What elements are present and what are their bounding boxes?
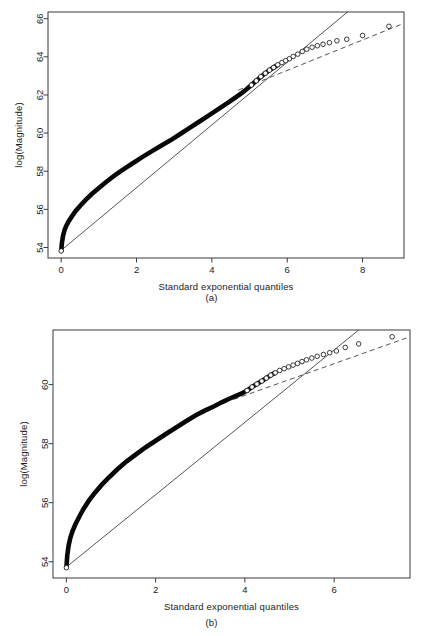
data-point — [267, 68, 272, 73]
data-point — [268, 373, 273, 378]
y-tick-label: 54 — [40, 556, 51, 567]
x-tick-label: 4 — [242, 584, 247, 595]
data-point — [321, 42, 326, 47]
data-point — [291, 363, 296, 368]
data-point — [387, 24, 392, 29]
data-point — [291, 54, 296, 59]
data-point — [295, 361, 300, 366]
data-point — [255, 382, 260, 387]
qq-plot-b: 024654565860Standard exponential quantil… — [0, 310, 423, 636]
y-tick-label: 56 — [40, 497, 51, 508]
y-tick-label: 54 — [35, 242, 46, 253]
data-point — [315, 43, 320, 48]
data-point — [264, 376, 269, 381]
data-point — [59, 249, 64, 254]
data-point — [360, 33, 365, 38]
data-point — [315, 354, 320, 359]
data-point — [271, 65, 276, 70]
data-point — [273, 371, 278, 376]
y-tick-label: 64 — [35, 52, 46, 63]
data-point — [343, 345, 348, 350]
data-point — [304, 358, 309, 363]
y-tick-label: 66 — [35, 13, 46, 24]
y-tick-label: 58 — [35, 166, 46, 177]
x-tick-label: 4 — [209, 264, 214, 275]
x-tick-label: 6 — [331, 584, 336, 595]
data-point — [263, 71, 268, 76]
plot-frame — [48, 12, 404, 258]
data-point — [305, 47, 310, 52]
y-tick-label: 56 — [35, 204, 46, 215]
data-point — [327, 40, 332, 45]
panel-b-caption: (b) — [0, 617, 423, 628]
panel-a-caption: (a) — [0, 292, 423, 303]
data-point — [249, 83, 254, 88]
data-point — [245, 388, 250, 393]
data-point — [295, 52, 300, 57]
data-point — [310, 45, 315, 50]
data-point — [334, 349, 339, 354]
y-tick-label: 62 — [35, 90, 46, 101]
data-point — [259, 74, 264, 79]
panel-a: 0246854565860626466Standard exponential … — [0, 0, 423, 310]
data-point — [286, 365, 291, 370]
x-tick-label: 8 — [360, 264, 365, 275]
data-point — [254, 79, 259, 84]
panel-b: 024654565860Standard exponential quantil… — [0, 310, 423, 636]
x-axis-title: Standard exponential quantiles — [164, 601, 299, 612]
y-tick-label: 58 — [40, 438, 51, 449]
y-axis-title: log(Magnitude) — [13, 102, 24, 167]
y-tick-label: 60 — [35, 128, 46, 139]
x-axis-title: Standard exponential quantiles — [159, 281, 294, 292]
data-point — [277, 368, 282, 373]
dense-point-band — [66, 391, 247, 568]
data-point — [300, 49, 305, 54]
data-point — [64, 565, 69, 570]
plot-area: 024654565860Standard exponential quantil… — [18, 330, 411, 612]
dense-point-band — [61, 85, 251, 251]
data-point — [282, 366, 287, 371]
x-tick-label: 6 — [285, 264, 290, 275]
plot-frame — [53, 330, 410, 578]
y-tick-label: 60 — [40, 379, 51, 390]
data-point — [250, 385, 255, 390]
figure-root: 0246854565860626466Standard exponential … — [0, 0, 423, 636]
data-point — [344, 37, 349, 42]
data-point — [321, 352, 326, 357]
data-point — [356, 342, 361, 347]
x-tick-label: 0 — [59, 264, 64, 275]
data-point — [300, 359, 305, 364]
data-point — [335, 39, 340, 44]
dashed-tail-line-ref — [234, 338, 407, 399]
data-point — [260, 379, 265, 384]
x-tick-label: 2 — [134, 264, 139, 275]
y-axis-title: log(Magnitude) — [18, 421, 29, 486]
data-point — [327, 350, 332, 355]
x-tick-label: 2 — [153, 584, 158, 595]
data-point — [310, 356, 315, 361]
x-tick-label: 0 — [64, 584, 69, 595]
dashed-tail-line-ref — [238, 24, 402, 90]
solid-fit-line-ref — [66, 330, 358, 567]
qq-plot-a: 0246854565860626466Standard exponential … — [0, 0, 423, 310]
plot-area: 0246854565860626466Standard exponential … — [13, 12, 405, 292]
data-point — [390, 334, 395, 339]
